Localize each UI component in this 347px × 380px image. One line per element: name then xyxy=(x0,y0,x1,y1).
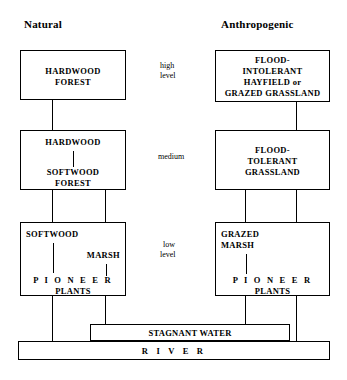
box-flood-intolerant-line1: FLOOD- xyxy=(216,55,329,66)
connector-left-high-to-medium xyxy=(52,100,53,130)
box-hardwood-softwood-line3: FOREST xyxy=(21,178,125,189)
box-hardwood-softwood-line1: HARDWOOD xyxy=(21,137,125,148)
box-softwood-label: SOFTWOOD xyxy=(26,229,78,240)
connector-left-medium-to-low-a xyxy=(52,190,53,222)
box-left-plants-label: PLANTS xyxy=(21,286,125,297)
connector-inner-right-marsh-pioneer xyxy=(246,254,247,274)
box-right-pioneer-label: P I O N E E R xyxy=(216,275,329,286)
box-left-pioneer-label: P I O N E E R xyxy=(21,275,125,286)
level-label-low-line2: level xyxy=(160,250,176,260)
level-label-medium: medium xyxy=(158,152,184,162)
box-flood-tolerant-grassland: FLOOD- TOLERANT GRASSLAND xyxy=(215,130,330,190)
box-flood-intolerant-line2: INTOLERANT xyxy=(216,66,329,77)
box-hardwood-forest: HARDWOOD FOREST xyxy=(20,50,126,100)
box-stagnant-water: STAGNANT WATER xyxy=(90,324,290,341)
box-flood-tolerant-line2: TOLERANT xyxy=(216,156,329,167)
connector-left-low-to-river xyxy=(52,296,53,341)
box-river: R I V E R xyxy=(18,341,330,360)
connector-left-low-to-stagnant xyxy=(105,296,106,324)
succession-diagram: Natural Anthropogenic HARDWOOD FOREST HA… xyxy=(0,0,347,380)
connector-inner-left-softwood-pioneer xyxy=(53,243,54,273)
box-hardwood-forest-line1: HARDWOOD xyxy=(21,66,125,77)
level-label-low-line1: low xyxy=(163,240,175,250)
connector-right-medium-to-low-a xyxy=(245,190,246,222)
column-title-natural: Natural xyxy=(24,18,62,30)
box-flood-intolerant-line4: GRAZED GRASSLAND xyxy=(216,88,329,99)
level-label-high-line2: level xyxy=(160,71,176,81)
box-hardwood-forest-line2: FOREST xyxy=(21,77,125,88)
box-flood-intolerant-line3: HAYFIELD or xyxy=(216,77,329,88)
connector-right-low-to-river xyxy=(296,296,297,341)
connector-right-low-to-stagnant xyxy=(245,296,246,324)
connector-right-high-to-medium xyxy=(296,102,297,130)
stagnant-water-label: STAGNANT WATER xyxy=(91,328,289,339)
box-softwood-marsh-pioneer: SOFTWOOD MARSH P I O N E E R PLANTS xyxy=(20,222,126,296)
connector-left-medium-to-low-b xyxy=(105,190,106,222)
box-hardwood-softwood-forest: HARDWOOD SOFTWOOD FOREST xyxy=(20,130,126,190)
column-title-anthropogenic: Anthropogenic xyxy=(221,18,294,30)
river-label: R I V E R xyxy=(19,346,329,357)
box-hardwood-softwood-line2: SOFTWOOD xyxy=(21,167,125,178)
box-right-plants-label: PLANTS xyxy=(216,286,329,297)
box-flood-intolerant-hayfield: FLOOD- INTOLERANT HAYFIELD or GRAZED GRA… xyxy=(215,50,330,102)
box-grazed-marsh-line2: MARSH xyxy=(221,240,254,251)
connector-inner-left-medium xyxy=(73,151,74,167)
box-flood-tolerant-line3: GRASSLAND xyxy=(216,167,329,178)
connector-right-medium-to-low-b xyxy=(296,190,297,222)
box-grazed-marsh-pioneer: GRAZED MARSH P I O N E E R PLANTS xyxy=(215,222,330,296)
level-label-high-line1: high xyxy=(160,61,174,71)
box-flood-tolerant-line1: FLOOD- xyxy=(216,145,329,156)
box-grazed-marsh-line1: GRAZED xyxy=(221,229,259,240)
box-marsh-label: MARSH xyxy=(87,250,120,261)
